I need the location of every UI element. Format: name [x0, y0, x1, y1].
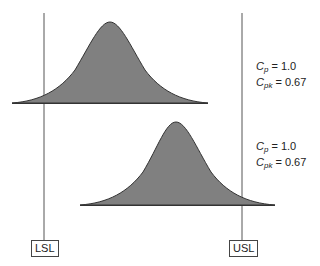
- bottom-capability-label: Cp = 1.0 Cpk = 0.67: [256, 140, 306, 172]
- top-distribution-curve: [12, 22, 208, 103]
- usl-label: USL: [229, 240, 258, 257]
- process-capability-diagram: [0, 0, 320, 266]
- bottom-distribution-curve: [80, 122, 275, 205]
- lsl-label: LSL: [31, 240, 59, 257]
- top-capability-label: Cp = 1.0 Cpk = 0.67: [256, 60, 306, 92]
